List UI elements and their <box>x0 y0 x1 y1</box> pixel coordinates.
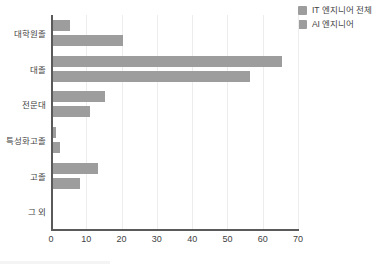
legend-item-it-engineers-total: IT 엔지니어 전체 <box>298 6 372 15</box>
bar <box>51 163 98 174</box>
bar <box>51 35 123 46</box>
bar-group <box>51 51 298 87</box>
y-axis-category-labels: 대학원졸대졸전문대특성화고졸고졸그 외 <box>0 15 46 229</box>
x-tick-label: 10 <box>81 234 91 244</box>
bar <box>51 142 60 153</box>
bar <box>51 56 282 67</box>
legend-item-ai-engineers: AI 엔지니어 <box>298 20 354 29</box>
bar <box>51 178 80 189</box>
category-label: 전문대 <box>0 86 46 122</box>
chart-legend: IT 엔지니어 전체 AI 엔지니어 <box>298 6 372 29</box>
x-axis-tick-labels: 010203040506070 <box>51 234 298 248</box>
x-tick-label: 20 <box>117 234 127 244</box>
bar-group <box>51 193 298 229</box>
bar-group <box>51 86 298 122</box>
x-tick-label: 30 <box>152 234 162 244</box>
legend-label: IT 엔지니어 전체 <box>312 6 372 15</box>
category-label: 대졸 <box>0 51 46 87</box>
legend-label: AI 엔지니어 <box>312 20 354 29</box>
bar <box>51 198 53 209</box>
bar-chart: IT 엔지니어 전체 AI 엔지니어 대학원졸대졸전문대특성화고졸고졸그 외 0… <box>0 0 378 264</box>
category-label: 대학원졸 <box>0 15 46 51</box>
bar <box>51 91 105 102</box>
bar <box>51 213 52 224</box>
x-tick-label: 50 <box>222 234 232 244</box>
bar <box>51 106 90 117</box>
x-tick-label: 40 <box>187 234 197 244</box>
category-label: 그 외 <box>0 193 46 229</box>
gridline <box>298 15 299 229</box>
bar <box>51 20 70 31</box>
legend-swatch-icon <box>298 20 307 29</box>
legend-swatch-icon <box>298 6 307 15</box>
bar-group <box>51 158 298 194</box>
plot-area <box>51 15 298 229</box>
bar-group <box>51 122 298 158</box>
x-tick-label: 70 <box>293 234 303 244</box>
category-label: 특성화고졸 <box>0 122 46 158</box>
x-axis-line <box>51 229 299 231</box>
bar <box>51 127 56 138</box>
bar-group <box>51 15 298 51</box>
x-tick-label: 0 <box>48 234 53 244</box>
x-tick-label: 60 <box>258 234 268 244</box>
bar-groups <box>51 15 298 229</box>
category-label: 고졸 <box>0 158 46 194</box>
bar <box>51 71 250 82</box>
